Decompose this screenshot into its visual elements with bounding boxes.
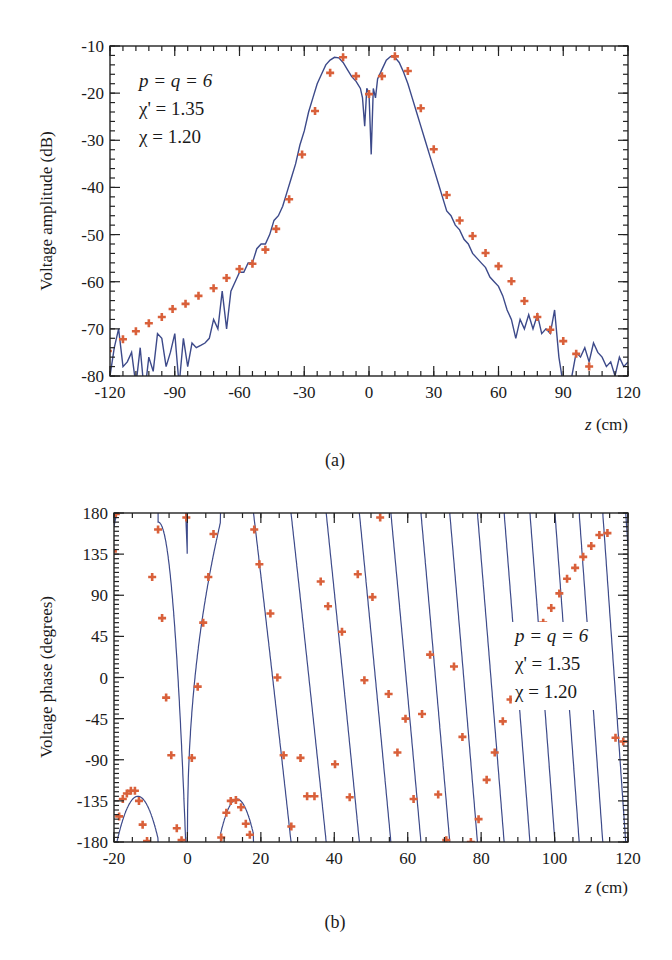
x-tick-label: -30 [293, 383, 316, 402]
amplitude-chart: -120-90-60-300306090120-10-20-30-40-50-6… [37, 37, 641, 471]
legend-line-chi: χ = 1.20 [514, 681, 577, 702]
x-tick-label: 40 [326, 849, 343, 868]
data-marker-plus [273, 674, 281, 682]
data-marker-plus [385, 690, 393, 698]
data-marker-plus [563, 575, 571, 583]
data-marker-plus [404, 67, 412, 75]
y-tick-label: -180 [77, 833, 108, 852]
y-tick-label: -90 [85, 751, 108, 770]
data-marker-plus [298, 150, 306, 158]
data-marker-plus [194, 292, 202, 300]
x-tick-label: 60 [399, 849, 416, 868]
data-marker-plus [248, 260, 256, 268]
data-marker-plus [587, 542, 595, 550]
data-marker-plus [483, 776, 491, 784]
y-tick-label: -70 [81, 320, 104, 339]
amplitude-y-axis-title: Voltage amplitude (dB) [37, 131, 56, 290]
data-marker-plus [378, 72, 386, 80]
data-marker-plus [559, 337, 567, 345]
data-marker-plus [223, 274, 231, 282]
data-marker-plus [450, 663, 458, 671]
data-marker-plus [182, 300, 190, 308]
data-marker-plus [393, 748, 401, 756]
data-marker-plus [579, 553, 587, 561]
y-tick-label: 135 [83, 545, 109, 564]
data-marker-plus [368, 593, 376, 601]
x-tick-label: 0 [183, 849, 192, 868]
data-marker-plus [145, 319, 153, 327]
data-marker-plus [434, 790, 442, 798]
x-tick-label: 30 [425, 383, 442, 402]
y-tick-label: 0 [100, 669, 109, 688]
data-marker-plus [169, 305, 177, 313]
data-marker-plus [458, 733, 466, 741]
data-marker-plus [317, 578, 325, 586]
data-marker-plus [178, 836, 186, 844]
data-marker-plus [143, 837, 151, 845]
data-marker-plus [417, 104, 425, 112]
panel-label-a: (a) [325, 450, 345, 471]
y-tick-label: -50 [81, 226, 104, 245]
data-marker-plus [250, 525, 258, 533]
y-tick-label: 180 [83, 504, 109, 523]
data-marker-plus [547, 604, 555, 612]
x-tick-label: -60 [228, 383, 251, 402]
data-marker-plus [182, 514, 190, 522]
data-marker-plus [533, 313, 541, 321]
y-tick-label: -60 [81, 273, 104, 292]
data-marker-plus [354, 570, 362, 578]
amplitude-legend: p = q = 6 χ' = 1.35 χ = 1.20 [137, 70, 213, 147]
data-marker-plus [158, 614, 166, 622]
x-tick-label: 90 [555, 383, 572, 402]
data-marker-plus [154, 525, 162, 533]
data-marker-plus [199, 619, 207, 627]
data-marker-plus [167, 751, 175, 759]
data-marker-plus [585, 363, 593, 371]
y-tick-label: -40 [81, 178, 104, 197]
data-marker-plus [430, 145, 438, 153]
data-marker-plus [324, 602, 332, 610]
data-marker-plus [232, 796, 240, 804]
data-marker-plus [242, 820, 250, 828]
y-tick-label: -10 [81, 37, 104, 56]
data-marker-plus [209, 530, 217, 538]
data-marker-plus [297, 754, 305, 762]
data-marker-plus [266, 610, 274, 618]
y-tick-label: 45 [91, 627, 108, 646]
data-marker-plus [303, 792, 311, 800]
phase-chart: -2002040608010012018013590450-45-90-135-… [37, 504, 641, 933]
data-marker-plus [443, 191, 451, 199]
legend-line-chi: χ = 1.20 [138, 126, 201, 147]
data-marker-plus [261, 246, 269, 254]
data-marker-plus [311, 107, 319, 115]
data-marker-plus [331, 760, 339, 768]
data-marker-plus [402, 715, 410, 723]
data-marker-plus [139, 821, 147, 829]
data-marker-plus [376, 514, 384, 522]
data-marker-plus [326, 69, 334, 77]
x-tick-label: -90 [163, 383, 186, 402]
data-marker-plus [546, 326, 554, 334]
legend-line-chi-prime: χ' = 1.35 [138, 98, 204, 119]
legend-line-chi-prime: χ' = 1.35 [514, 653, 580, 674]
legend-line-pq: p = q = 6 [513, 625, 589, 646]
data-marker-plus [571, 564, 579, 572]
data-marker-plus [391, 52, 399, 60]
data-marker-plus [222, 809, 230, 817]
data-marker-plus [572, 350, 580, 358]
amplitude-x-axis-title: z (cm) [584, 415, 628, 434]
data-marker-plus [112, 510, 120, 518]
y-tick-label: -135 [77, 792, 108, 811]
y-tick-label: -20 [81, 84, 104, 103]
x-tick-label: 100 [542, 849, 568, 868]
x-tick-label: 120 [615, 383, 641, 402]
data-marker-plus [520, 297, 528, 305]
y-tick-label: -45 [85, 710, 108, 729]
y-tick-label: 90 [91, 586, 108, 605]
data-marker-plus [310, 792, 318, 800]
x-tick-label: 120 [615, 849, 641, 868]
panel-label-b: (b) [325, 912, 346, 933]
data-marker-plus [346, 793, 354, 801]
data-marker-plus [456, 216, 464, 224]
data-marker-plus [507, 277, 515, 285]
